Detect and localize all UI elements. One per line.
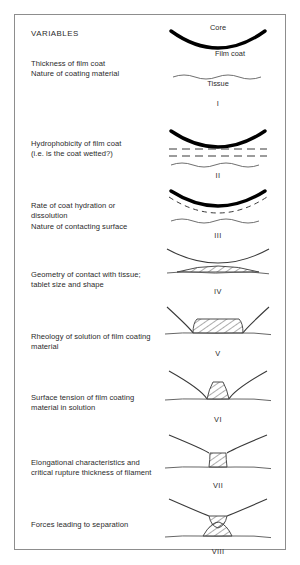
tablet-underside-curve-viii	[169, 499, 267, 516]
tissue-line-vii	[165, 467, 271, 469]
stage-diagram-ii	[153, 127, 283, 171]
elongated-filament-vii	[209, 453, 227, 467]
variable-text-thickness: Thickness of film coat Nature of coating…	[31, 59, 119, 80]
tissue-line-viii	[165, 536, 271, 538]
stage-panel-ii: II	[153, 127, 283, 183]
tissue-wavy-line-ii	[171, 163, 259, 167]
tablet-underside-curve-vii	[169, 435, 267, 453]
stage-diagram-v	[153, 303, 283, 351]
stage-numeral-iii: III	[153, 231, 283, 240]
figure-frame: VARIABLES Thickness of film coat Nature …	[14, 14, 286, 550]
liquid-bridge-v	[193, 319, 243, 333]
contact-liquid-lens-iv	[177, 266, 259, 272]
stage-panel-v: V	[153, 303, 283, 363]
tablet-underside-curve-iv	[167, 249, 269, 263]
variable-text-elongational: Elongational characteristics and critica…	[31, 458, 152, 479]
stage-numeral-viii: VIII	[153, 547, 283, 556]
stage-panel-vii: VII	[153, 433, 283, 495]
stage-numeral-vii: VII	[153, 481, 283, 490]
variable-text-hydration-rate: Rate of coat hydration or dissolution Na…	[31, 201, 127, 232]
film-coated-core-curve-i	[171, 31, 265, 48]
stage-panel-iii: III	[153, 187, 283, 243]
stage-diagram-vii	[153, 433, 283, 483]
variable-text-hydrophobicity: Hydrophobicity of film coat (i.e. is the…	[31, 139, 121, 160]
stage-diagram-viii	[153, 499, 283, 549]
stage-numeral-v: V	[153, 349, 283, 358]
film-coated-core-curve-iii	[171, 191, 265, 206]
film-coated-core-curve-ii	[171, 131, 265, 147]
stage-panel-i: Core Film coat Tissue I	[153, 19, 283, 115]
liquid-bridge-vi	[207, 382, 229, 399]
tissue-line-vi	[165, 399, 271, 401]
stage-panel-viii: VIII	[153, 499, 283, 561]
stage-diagram-iv	[153, 243, 283, 287]
stage-numeral-ii: II	[153, 171, 283, 180]
stage-diagram-vi	[153, 367, 283, 417]
ruptured-mound-on-tissue	[203, 522, 232, 536]
stage-numeral-iv: IV	[153, 287, 283, 296]
film-coat-label: Film coat	[215, 49, 245, 58]
stage-panel-vi: VI	[153, 367, 283, 429]
variable-text-geometry: Geometry of contact with tissue; tablet …	[31, 270, 141, 291]
variables-heading: VARIABLES	[31, 29, 79, 38]
stage-numeral-i: I	[153, 99, 283, 108]
core-label: Core	[153, 23, 283, 32]
tissue-line-v	[165, 333, 271, 335]
stage-panel-iv: IV	[153, 243, 283, 299]
figure-body: VARIABLES Thickness of film coat Nature …	[15, 15, 285, 549]
tissue-label: Tissue	[153, 79, 283, 88]
stage-diagram-iii	[153, 187, 283, 231]
variable-text-forces: Forces leading to separation	[31, 520, 128, 530]
variable-text-rheology: Rheology of solution of film coating mat…	[31, 332, 151, 353]
stage-numeral-vi: VI	[153, 415, 283, 424]
tissue-wavy-line-iii	[171, 219, 259, 223]
variable-text-surface-tension: Surface tension of film coating material…	[31, 393, 134, 414]
